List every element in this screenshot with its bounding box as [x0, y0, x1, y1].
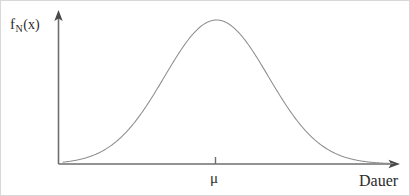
y-axis-label-argument: (x) [23, 17, 39, 32]
x-axis-label: Dauer [359, 173, 398, 189]
plot-canvas [1, 1, 410, 196]
mean-label: μ [210, 171, 218, 186]
horizontal-axis [59, 160, 401, 169]
normal-distribution-figure: fN(x) μ Dauer [0, 0, 410, 196]
y-axis-label: fN(x) [10, 17, 40, 34]
normal-distribution-curve [63, 20, 393, 164]
vertical-axis [54, 10, 62, 164]
y-axis-label-subscript: N [15, 23, 23, 34]
